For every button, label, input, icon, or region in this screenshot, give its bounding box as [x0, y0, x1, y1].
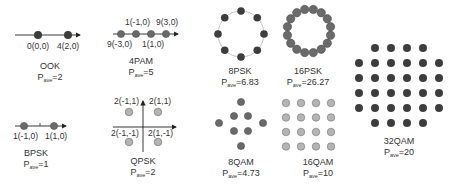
- qam32-diagram: 32QAM Pave=20: [355, 44, 443, 158]
- qpsk-point: [125, 138, 133, 146]
- qpsk-point: [154, 138, 162, 146]
- qam16-diagram: 16QAM Pave=10: [282, 99, 335, 179]
- bpsk-point: [50, 122, 57, 129]
- qam32-point: [371, 44, 379, 52]
- qam32-point: [403, 44, 411, 52]
- psk16-diagram: 16PSK Pave=26.27: [283, 5, 335, 88]
- pam4-diagram: 9(-3,0) 1(-1,0) 1(1,0) 9(3,0) 4PAM Pave=…: [107, 17, 178, 78]
- qam32-point: [371, 89, 379, 97]
- qam8-point: [215, 119, 222, 126]
- ook-title: OOK: [40, 61, 60, 71]
- qam8-point: [230, 127, 237, 134]
- qam32-point: [355, 89, 363, 97]
- qam32-point: [355, 74, 363, 82]
- pam4-point: [117, 30, 124, 37]
- qam8-diagram: 8QAM Pave=4.73: [215, 98, 266, 179]
- psk16-point: [287, 15, 295, 23]
- psk16-point: [293, 45, 301, 53]
- qam16-point: [297, 99, 305, 107]
- bpsk-diagram: 1(-1,0) 1(1,0) BPSK Pave=1: [13, 122, 67, 170]
- point-label: 2(-1,-1): [111, 128, 139, 138]
- qam32-point: [403, 89, 411, 97]
- point-label: 1(1,0): [45, 131, 67, 141]
- psk16-point: [326, 23, 334, 31]
- qam32-point: [371, 74, 379, 82]
- pam4-point: [132, 30, 139, 37]
- point-label: 2(1,1): [149, 96, 171, 106]
- qam32-point: [419, 89, 427, 97]
- qam16-point: [282, 99, 290, 107]
- point-label: 9(-3,0): [107, 39, 132, 49]
- ook-point: [34, 31, 42, 39]
- qpsk-point: [154, 108, 162, 116]
- qam32-point: [419, 59, 427, 67]
- point-label: 1(1,0): [142, 39, 164, 49]
- qam16-point: [327, 128, 335, 136]
- pam4-title: 4PAM: [129, 56, 153, 66]
- bpsk-pave: Pave=1: [23, 159, 48, 170]
- point-label: 0(0,0): [27, 41, 49, 51]
- psk8-point: [260, 30, 268, 38]
- qam8-point: [237, 98, 244, 105]
- qam32-point: [387, 44, 395, 52]
- qam32-point: [387, 89, 395, 97]
- qam32-point: [403, 104, 411, 112]
- qam16-point: [312, 143, 320, 151]
- psk8-point: [253, 14, 261, 22]
- qam16-title: 16QAM: [303, 157, 334, 167]
- pam4-point: [162, 30, 169, 37]
- psk8-point: [253, 46, 261, 54]
- psk16-point: [283, 23, 291, 31]
- qam32-point: [403, 74, 411, 82]
- point-label: 1(-1,0): [125, 17, 150, 27]
- qam32-point: [419, 119, 427, 127]
- qam32-point: [387, 74, 395, 82]
- psk8-title: 8PSK: [228, 66, 251, 76]
- psk8-point: [221, 14, 229, 22]
- qam32-title: 32QAM: [384, 136, 415, 146]
- psk16-title: 16PSK: [294, 66, 322, 76]
- qam16-point: [312, 99, 320, 107]
- qam16-point: [282, 128, 290, 136]
- psk8-point: [214, 30, 222, 38]
- point-label: 2(-1,1): [114, 96, 139, 106]
- bpsk-title: BPSK: [24, 148, 48, 158]
- point-label: 1(-1,0): [13, 131, 38, 141]
- qam32-point: [419, 44, 427, 52]
- qam16-point: [297, 128, 305, 136]
- qam32-point: [387, 119, 395, 127]
- psk16-point: [301, 5, 309, 13]
- qam32-point: [435, 59, 443, 67]
- qam32-point: [371, 119, 379, 127]
- psk16-point: [309, 48, 317, 56]
- qam16-point: [312, 128, 320, 136]
- ook-point: [64, 31, 72, 39]
- qpsk-pave: Pave=2: [130, 167, 155, 178]
- qam32-point: [435, 89, 443, 97]
- psk16-point: [309, 5, 317, 13]
- qam8-point: [230, 112, 237, 119]
- qam8-point: [244, 127, 251, 134]
- qam32-point: [435, 74, 443, 82]
- qam8-point: [259, 119, 266, 126]
- qam32-point: [403, 59, 411, 67]
- qam8-pave: Pave=4.73: [222, 168, 260, 179]
- qam8-title: 8QAM: [228, 157, 254, 167]
- psk8-point: [237, 53, 245, 61]
- qam32-point: [371, 104, 379, 112]
- qam16-point: [282, 143, 290, 151]
- psk8-pave: Pave=6.83: [221, 77, 259, 88]
- qam16-pave: Pave=10: [303, 168, 333, 179]
- qam16-point: [327, 99, 335, 107]
- pam4-point: [147, 30, 154, 37]
- ook-diagram: 0(0,0) 4(2,0) OOK Pave=2: [15, 31, 80, 83]
- point-label: 9(3,0): [156, 17, 178, 27]
- point-label: 2(1,-1): [148, 128, 173, 138]
- psk8-diagram: 8PSK Pave=6.83: [214, 7, 268, 88]
- psk16-point: [283, 31, 291, 39]
- psk16-point: [301, 48, 309, 56]
- ook-pave: Pave=2: [37, 72, 62, 83]
- qam32-point: [355, 59, 363, 67]
- qam32-point: [435, 104, 443, 112]
- bpsk-point: [20, 122, 27, 129]
